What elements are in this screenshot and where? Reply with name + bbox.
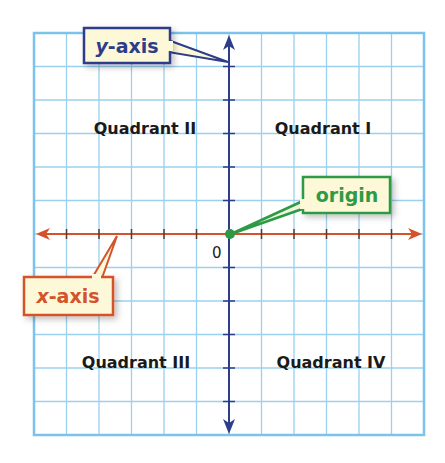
origin-label: origin — [316, 184, 379, 206]
quadrant-ii-label: Quadrant II — [94, 119, 196, 138]
zero-label: 0 — [212, 244, 222, 262]
x-axis-label-italic: x — [35, 285, 49, 307]
quadrant-iii-label: Quadrant III — [82, 353, 190, 372]
y-axis-callout-pointer — [168, 40, 228, 62]
y-axis-label-rest: -axis — [108, 35, 159, 57]
coordinate-plane: 0 Quadrant II Quadrant I Quadrant III Qu… — [0, 0, 445, 463]
x-axis-callout: x-axis — [24, 236, 117, 315]
origin-callout: origin — [231, 177, 390, 234]
svg-text:x-axis: x-axis — [35, 285, 99, 307]
svg-text:y-axis: y-axis — [95, 35, 158, 57]
origin-point — [225, 229, 235, 239]
x-axis-label-rest: -axis — [49, 285, 100, 307]
quadrant-iv-label: Quadrant IV — [277, 353, 386, 372]
x-axis-callout-pointer — [92, 236, 117, 278]
quadrant-i-label: Quadrant I — [275, 119, 372, 138]
